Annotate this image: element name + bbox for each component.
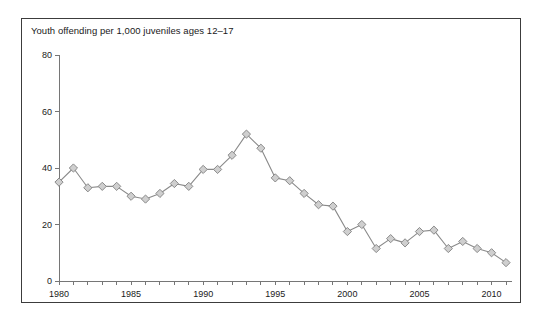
tick-marks [55,55,506,285]
x-tick-label: 2005 [409,289,429,299]
data-point-marker [156,189,164,197]
data-point-marker [372,244,380,252]
data-point-marker [358,220,366,228]
x-tick-label: 2010 [482,289,502,299]
x-tick-label: 1985 [121,289,141,299]
data-point-marker [271,174,279,182]
x-axis-labels: 1980198519901995200020052010 [49,289,502,299]
data-point-marker [113,182,121,190]
y-axis-labels: 020406080 [42,50,52,286]
x-tick-label: 1990 [193,289,213,299]
data-point-marker [127,192,135,200]
y-tick-label: 40 [42,163,52,173]
x-tick-label: 1980 [49,289,69,299]
line-chart-plot: 020406080 1980198519901995200020052010 [22,19,520,302]
data-point-marker [487,249,495,257]
data-point-marker [170,179,178,187]
data-point-marker [473,244,481,252]
data-point-marker [502,259,510,267]
data-point-marker [98,182,106,190]
axes [59,55,512,281]
data-point-marker [84,184,92,192]
data-markers [55,130,510,267]
x-tick-label: 1995 [265,289,285,299]
y-tick-label: 60 [42,107,52,117]
y-tick-label: 0 [47,276,52,286]
data-point-marker [343,227,351,235]
data-line [59,134,506,263]
data-point-marker [329,202,337,210]
data-point-marker [141,195,149,203]
data-point-marker [387,235,395,243]
y-tick-label: 80 [42,50,52,60]
y-tick-label: 20 [42,220,52,230]
chart-figure: Youth offending per 1,000 juveniles ages… [21,18,521,303]
data-point-marker [459,237,467,245]
x-tick-label: 2000 [337,289,357,299]
